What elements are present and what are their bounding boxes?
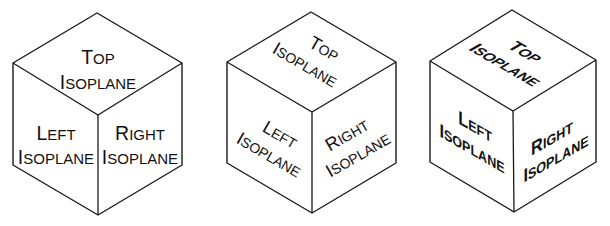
cube-1-top-label-line1: TOP: [81, 46, 115, 68]
cube-1: TOP ISOPLANE LEFT ISOPLANE RIGHT ISOPLAN…: [13, 13, 182, 215]
cube-1-left-label-line1: LEFT: [36, 122, 75, 144]
cube-1-right-label-line2: ISOPLANE: [102, 146, 178, 168]
cube-1-right-label-line1: RIGHT: [115, 122, 165, 144]
isometric-cubes-diagram: TOP ISOPLANE LEFT ISOPLANE RIGHT ISOPLAN…: [0, 0, 610, 226]
cube-1-top-label-line2: ISOPLANE: [60, 71, 136, 93]
cube-1-left-label-line2: ISOPLANE: [18, 146, 94, 168]
cube-2: TOP ISOPLANE LEFT ISOPLANE RIGHT ISOPLAN…: [227, 12, 396, 213]
cube-3: TOP ISOPLANE LEFT ISOPLANE RIGHT ISOPLAN…: [430, 10, 596, 212]
